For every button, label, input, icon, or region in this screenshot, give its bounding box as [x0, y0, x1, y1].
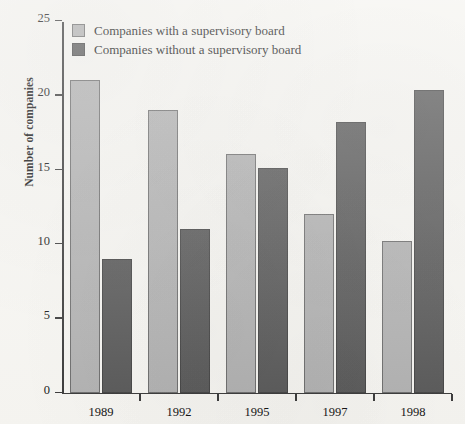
y-tick-20: 20: [55, 94, 62, 96]
bar-1992-series-0: [148, 110, 178, 393]
y-tick-25: 25: [55, 20, 62, 22]
bar-1989-series-1: [102, 259, 132, 393]
x-tick: [451, 394, 453, 401]
x-tick: [139, 394, 141, 401]
y-tick-label: 10: [38, 234, 51, 249]
y-tick-label: 20: [38, 85, 51, 100]
plot-area: 0510152025 19891992199519971998: [62, 22, 452, 394]
y-tick-label: 15: [38, 160, 51, 175]
bar-1998-series-0: [382, 241, 412, 393]
bar-chart-figure: Number of companies 0510152025 198919921…: [0, 0, 465, 424]
x-tick-label-1998: 1998: [401, 405, 426, 420]
legend-item-0: Companies with a supervisory board: [72, 21, 301, 40]
y-tick-10: 10: [55, 243, 62, 245]
legend-swatch-icon: [72, 43, 85, 56]
legend-label: Companies with a supervisory board: [94, 23, 285, 39]
y-axis-line: [62, 22, 64, 394]
legend-swatch-icon: [72, 24, 85, 37]
bar-1992-series-1: [180, 229, 210, 393]
x-axis-line: [62, 393, 452, 395]
chart-legend: Companies with a supervisory boardCompan…: [72, 21, 301, 59]
y-tick-label: 25: [38, 11, 51, 26]
y-tick-15: 15: [55, 169, 62, 171]
legend-item-1: Companies without a supervisory board: [72, 40, 301, 59]
legend-label: Companies without a supervisory board: [94, 42, 301, 58]
bar-1995-series-1: [258, 168, 288, 393]
x-tick-label-1995: 1995: [245, 405, 270, 420]
x-tick: [373, 394, 375, 401]
y-axis-title: Number of companies: [23, 47, 35, 217]
bar-1997-series-0: [304, 214, 334, 393]
x-tick-label-1992: 1992: [167, 405, 192, 420]
x-tick: [217, 394, 219, 401]
bar-1998-series-1: [414, 90, 444, 392]
x-tick-label-1989: 1989: [89, 405, 114, 420]
bar-1995-series-0: [226, 154, 256, 392]
x-tick: [295, 394, 297, 401]
y-tick-label: 5: [44, 308, 50, 323]
bar-1997-series-1: [336, 122, 366, 393]
y-tick-5: 5: [55, 317, 62, 319]
x-tick-label-1997: 1997: [323, 405, 348, 420]
y-tick-0: 0: [55, 392, 62, 394]
y-tick-label: 0: [44, 383, 50, 398]
bar-1989-series-0: [70, 80, 100, 392]
